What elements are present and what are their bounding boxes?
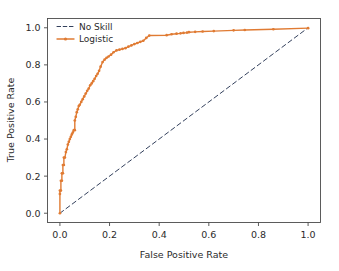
series-marker	[130, 44, 133, 47]
series-marker	[69, 135, 72, 138]
series-marker	[75, 111, 78, 114]
series-marker	[139, 41, 142, 44]
x-axis-tick-labels: 0.00.20.40.60.81.0	[52, 229, 315, 240]
series-marker	[99, 65, 102, 68]
series-marker	[98, 69, 101, 72]
series-marker	[60, 189, 63, 192]
series-marker	[74, 115, 77, 118]
chart-legend: No SkillLogistic	[57, 22, 113, 45]
y-tick-label: 1.0	[25, 22, 40, 33]
series-marker	[175, 32, 178, 35]
legend-label: No Skill	[79, 22, 113, 32]
x-tick-label: 0.2	[102, 229, 117, 240]
series-marker	[142, 39, 145, 42]
series-marker	[307, 27, 310, 30]
x-tick-label: 0.6	[201, 229, 216, 240]
y-tick-label: 0.0	[25, 208, 40, 219]
series-marker	[95, 75, 98, 78]
series-marker	[121, 48, 124, 51]
series-marker	[83, 95, 86, 98]
x-tick-label: 0.8	[251, 229, 266, 240]
series-marker	[86, 89, 89, 92]
series-marker	[165, 34, 168, 37]
x-axis-ticks	[60, 223, 308, 227]
x-tick-label: 0.0	[52, 229, 67, 240]
legend-swatch-marker	[64, 37, 67, 40]
y-axis-tick-labels: 0.00.20.40.60.81.0	[25, 22, 40, 218]
series-marker	[76, 108, 79, 111]
legend-label: Logistic	[79, 34, 113, 44]
series-marker	[96, 72, 99, 75]
series-marker	[63, 164, 66, 167]
x-axis-title: False Positive Rate	[140, 249, 228, 260]
series-marker	[62, 172, 65, 175]
series-marker	[101, 61, 104, 64]
series-marker	[272, 28, 275, 31]
series-marker	[78, 103, 81, 106]
y-tick-label: 0.6	[25, 96, 40, 107]
data-series-group	[59, 27, 310, 215]
series-marker	[67, 143, 70, 146]
series-marker	[127, 45, 130, 48]
y-tick-label: 0.4	[25, 133, 40, 144]
series-marker	[73, 129, 76, 132]
roc-curve-figure: 0.00.20.40.60.81.0 0.00.20.40.60.81.0 No…	[0, 0, 339, 271]
x-tick-label: 1.0	[301, 229, 316, 240]
series-marker	[188, 31, 191, 34]
series-marker	[80, 101, 83, 104]
series-marker	[66, 148, 69, 151]
series-marker	[65, 151, 68, 154]
series-marker	[93, 77, 96, 80]
y-axis-title: True Positive Rate	[5, 78, 16, 164]
y-tick-label: 0.8	[25, 59, 40, 70]
series-marker	[148, 34, 151, 37]
series-marker	[201, 30, 204, 33]
series-marker	[179, 32, 182, 35]
series-marker	[243, 29, 246, 32]
series-marker	[61, 179, 64, 182]
series-marker	[136, 42, 139, 45]
series-marker	[64, 156, 67, 159]
series-marker	[103, 58, 106, 61]
y-tick-label: 0.2	[25, 171, 40, 182]
series-marker	[59, 212, 62, 215]
series-marker	[84, 92, 87, 95]
series-marker	[112, 51, 115, 54]
series-line-no-skill	[60, 28, 308, 213]
series-marker	[110, 53, 113, 56]
series-marker	[124, 47, 127, 50]
series-marker	[170, 33, 173, 36]
series-marker	[67, 140, 70, 143]
series-marker	[59, 193, 62, 196]
series-marker	[87, 87, 90, 90]
series-marker	[115, 49, 118, 52]
series-marker	[92, 80, 95, 83]
series-marker	[182, 32, 185, 35]
x-tick-label: 0.4	[152, 229, 167, 240]
series-marker	[133, 43, 136, 46]
series-marker	[73, 119, 76, 122]
series-marker	[71, 131, 74, 134]
series-marker	[212, 30, 215, 33]
series-marker	[81, 98, 84, 101]
chart-canvas: 0.00.20.40.60.81.0 0.00.20.40.60.81.0 No…	[0, 0, 339, 271]
series-marker	[194, 31, 197, 34]
series-marker	[118, 48, 121, 51]
series-marker	[90, 82, 93, 85]
series-marker	[145, 37, 148, 40]
series-marker	[107, 55, 110, 58]
series-marker	[232, 29, 235, 32]
y-axis-ticks	[44, 28, 48, 213]
